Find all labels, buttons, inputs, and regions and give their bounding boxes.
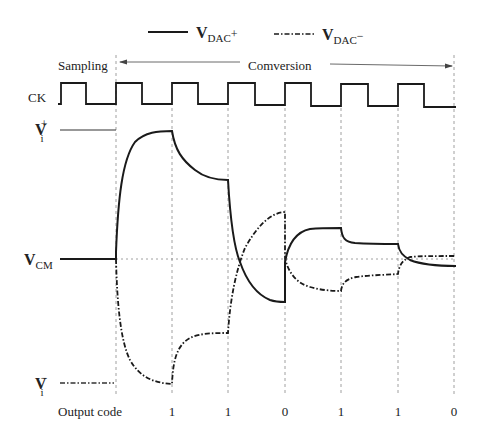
- output-bit-3: 0: [282, 404, 289, 419]
- sar-adc-timing-diagram: VDAC+ VDAC− Sampling Comversion CK Vi+ V…: [0, 0, 482, 446]
- conversion-label: Comversion: [248, 58, 312, 73]
- output-bit-2: 1: [225, 404, 232, 419]
- output-bit-4: 1: [338, 404, 345, 419]
- output-bit-6: 0: [451, 404, 458, 419]
- output-bit-1: 1: [169, 404, 176, 419]
- vdac-pos-waveform: [60, 131, 456, 302]
- output-code-label: Output code: [58, 404, 122, 419]
- vi-pos-label: Vi+: [35, 117, 48, 144]
- vcm-label: VCM: [24, 251, 53, 271]
- sampling-label: Sampling: [58, 58, 108, 73]
- output-bit-5: 1: [395, 404, 402, 419]
- clock-waveform: [58, 83, 456, 107]
- vi-neg-label: Vi−: [35, 371, 48, 398]
- output-code-values: 1 1 0 1 1 0: [169, 404, 458, 419]
- legend: VDAC+ VDAC−: [148, 24, 364, 46]
- legend-vdac-pos-label: VDAC+: [196, 24, 238, 44]
- clock-label: CK: [28, 90, 47, 105]
- legend-vdac-neg-label: VDAC−: [322, 26, 364, 46]
